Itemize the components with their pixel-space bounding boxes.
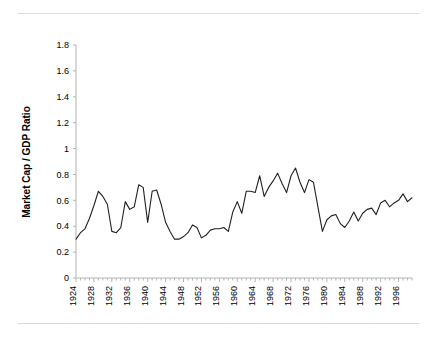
y-axis-tick-label: 1: [64, 144, 69, 154]
x-axis-tick-label: 1936: [122, 286, 132, 306]
x-axis-tick-label: 1988: [355, 286, 365, 306]
y-axis-tick-label: 1.8: [56, 40, 69, 50]
x-axis-tick-label: 1984: [337, 286, 347, 306]
y-axis-tick-label: 0.2: [56, 247, 69, 257]
x-axis-tick-label: 1928: [86, 286, 96, 306]
x-axis-tick-label: 1952: [193, 286, 203, 306]
line-chart-plot: 00.20.40.60.811.21.41.61.8 1924192819321…: [0, 0, 437, 337]
x-axis-tick-label: 1940: [140, 286, 150, 306]
y-axis-tick-label: 0.6: [56, 196, 69, 206]
x-axis-tick-label: 1960: [229, 286, 239, 306]
x-axis-tick-label: 1980: [319, 286, 329, 306]
y-axis-tick-label: 1.6: [56, 66, 69, 76]
y-axis-tick-label: 1.2: [56, 118, 69, 128]
x-axis-tick-label: 1992: [373, 286, 383, 306]
x-axis-tick-label: 1996: [391, 286, 401, 306]
y-axis-tick-label: 0.4: [56, 221, 69, 231]
x-axis-tick-labels: 1924192819321936194019441948195219561960…: [68, 286, 401, 306]
x-axis-tick-label: 1944: [158, 286, 168, 306]
x-axis-tick-label: 1956: [211, 286, 221, 306]
x-axis-tick-label: 1932: [104, 286, 114, 306]
data-series-line: [76, 168, 412, 239]
x-axis-tick-label: 1968: [265, 286, 275, 306]
x-axis-ticks: [76, 278, 412, 282]
chart-figure: 00.20.40.60.811.21.41.61.8 1924192819321…: [0, 0, 437, 337]
x-axis-tick-label: 1924: [68, 286, 78, 306]
x-axis-tick-label: 1964: [247, 286, 257, 306]
y-axis-tick-label: 1.4: [56, 92, 69, 102]
x-axis-tick-label: 1972: [283, 286, 293, 306]
y-axis-tick-label: 0: [64, 273, 69, 283]
y-axis-title: Market Cap / GDP Ratio: [21, 106, 32, 218]
x-axis-tick-label: 1976: [301, 286, 311, 306]
y-axis-tick-label: 0.8: [56, 170, 69, 180]
x-axis-tick-label: 1948: [176, 286, 186, 306]
y-axis-tick-labels: 00.20.40.60.811.21.41.61.8: [56, 40, 69, 283]
